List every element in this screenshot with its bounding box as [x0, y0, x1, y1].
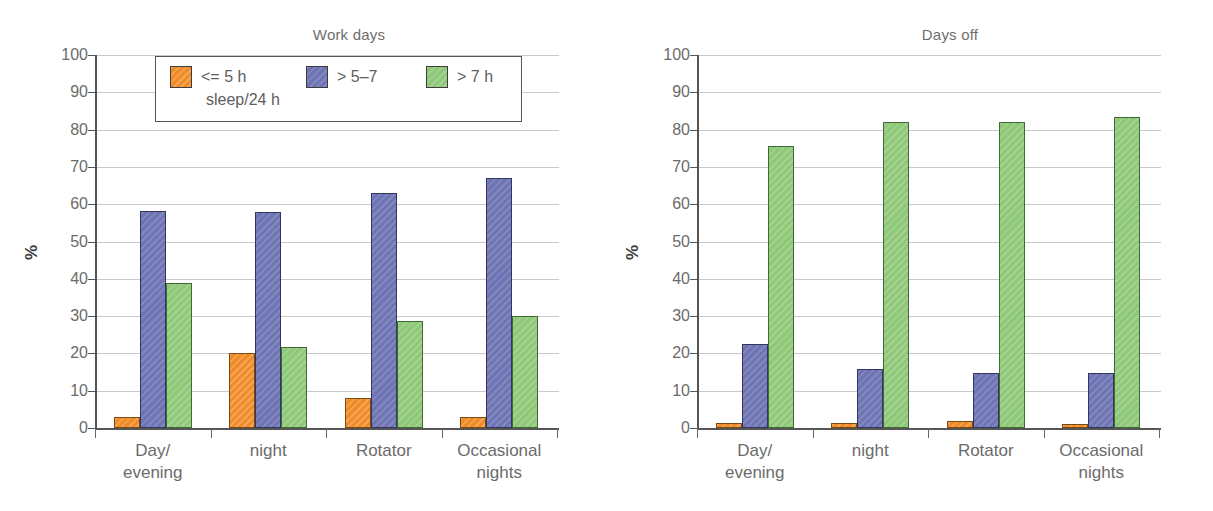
bar-gt7h-group-3 [397, 321, 423, 428]
y-tick-label-10: 10 [70, 382, 88, 400]
y-tick-label-100: 100 [663, 46, 690, 64]
legend-label-5to7h: > 5–7 [337, 68, 377, 86]
y-tick-label-70: 70 [672, 158, 690, 176]
y-tick-label-0: 0 [79, 419, 88, 437]
bar-le5h-group-4 [460, 417, 486, 428]
legend-swatch-5to7h [306, 66, 328, 88]
bar-gt7h-group-2 [281, 347, 307, 428]
bar-5to7h-group-1 [140, 211, 166, 428]
chart-title-days-off: Days off [607, 26, 1213, 43]
y-tick-label-100: 100 [61, 46, 88, 64]
legend-item-le5h: <= 5 h [170, 66, 246, 88]
legend-subtitle: sleep/24 h [206, 91, 280, 109]
y-tick-label-50: 50 [70, 233, 88, 251]
x-axis-categories-left: Day/ eveningnightRotatorOccasional night… [95, 440, 557, 500]
x-group-tick-1 [211, 428, 212, 438]
x-group-tick-3 [442, 428, 443, 438]
chart-title-work-days: Work days [0, 26, 652, 43]
x-edge-tick-0 [95, 428, 96, 438]
bar-le5h-group-3 [947, 421, 973, 428]
legend-items-row: <= 5 h > 5–7 > 7 h [156, 57, 521, 89]
y-axis-ticks-right: 0102030405060708090100 [632, 55, 690, 428]
legend-item-5to7h: > 5–7 [306, 66, 377, 88]
bar-5to7h-group-4 [486, 178, 512, 428]
y-tick-label-80: 80 [672, 121, 690, 139]
legend-label-gt7h: > 7 h [457, 68, 493, 86]
y-tick-label-50: 50 [672, 233, 690, 251]
y-tick-label-80: 80 [70, 121, 88, 139]
bar-le5h-group-1 [114, 417, 140, 428]
bar-le5h-group-2 [831, 423, 857, 428]
bar-le5h-group-1 [716, 423, 742, 428]
figure-root: Work days 0102030405060708090100 % Day/ … [0, 0, 1213, 511]
bar-5to7h-group-1 [742, 344, 768, 428]
bar-5to7h-group-2 [857, 369, 883, 428]
y-tick-label-30: 30 [70, 307, 88, 325]
bar-gt7h-group-1 [768, 146, 794, 428]
x-group-tick-2 [326, 428, 327, 438]
legend-item-gt7h: > 7 h [426, 66, 493, 88]
y-tick-label-40: 40 [70, 270, 88, 288]
y-tick-label-20: 20 [672, 344, 690, 362]
x-edge-tick-0 [697, 428, 698, 438]
y-axis-label-right: % [623, 244, 643, 260]
y-tick-label-20: 20 [70, 344, 88, 362]
legend-swatch-le5h [170, 66, 192, 88]
x-edge-tick-1 [1159, 428, 1160, 438]
x-group-tick-3 [1044, 428, 1045, 438]
y-axis-ticks-left: 0102030405060708090100 [30, 55, 88, 428]
x-group-tick-1 [813, 428, 814, 438]
legend-swatch-gt7h [426, 66, 448, 88]
y-tick-label-70: 70 [70, 158, 88, 176]
bar-5to7h-group-3 [973, 373, 999, 428]
y-tick-label-10: 10 [672, 382, 690, 400]
y-tick-label-90: 90 [672, 83, 690, 101]
y-tick-label-60: 60 [70, 195, 88, 213]
x-category-label-4: Occasional nights [1032, 440, 1172, 484]
chart-legend: <= 5 h > 5–7 > 7 h sleep/24 h [155, 56, 522, 122]
bar-gt7h-group-2 [883, 122, 909, 428]
bar-le5h-group-3 [345, 398, 371, 428]
bar-5to7h-group-2 [255, 212, 281, 428]
y-axis-label-left: % [22, 244, 42, 260]
y-tick-label-0: 0 [681, 419, 690, 437]
bar-5to7h-group-4 [1088, 373, 1114, 428]
bar-series-container-right [697, 55, 1159, 428]
x-edge-tick-1 [557, 428, 558, 438]
y-tick-label-60: 60 [672, 195, 690, 213]
bar-le5h-group-2 [229, 353, 255, 428]
x-group-tick-2 [928, 428, 929, 438]
x-axis-line-left [95, 428, 559, 430]
bar-gt7h-group-4 [1114, 117, 1140, 428]
bar-gt7h-group-1 [166, 283, 192, 428]
bar-gt7h-group-3 [999, 122, 1025, 428]
legend-label-le5h: <= 5 h [201, 68, 246, 86]
x-axis-line-right [697, 428, 1161, 430]
chart-panel-work-days: Work days 0102030405060708090100 % Day/ … [0, 0, 606, 511]
y-tick-label-90: 90 [70, 83, 88, 101]
x-category-label-4: Occasional nights [430, 440, 570, 484]
y-tick-label-40: 40 [672, 270, 690, 288]
chart-panel-days-off: Days off 0102030405060708090100 % Day/ e… [607, 0, 1213, 511]
bar-gt7h-group-4 [512, 316, 538, 428]
bar-le5h-group-4 [1062, 424, 1088, 428]
bar-5to7h-group-3 [371, 193, 397, 428]
y-tick-label-30: 30 [672, 307, 690, 325]
x-axis-categories-right: Day/ eveningnightRotatorOccasional night… [697, 440, 1159, 500]
